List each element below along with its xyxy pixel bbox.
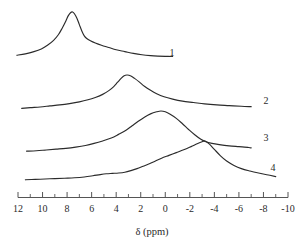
spectrum-trace-2 bbox=[22, 75, 252, 108]
spectrum-label-1: 1 bbox=[170, 47, 175, 58]
spectrum-label-2: 2 bbox=[264, 95, 269, 106]
x-axis-tick-label: 2 bbox=[138, 203, 143, 214]
x-axis-tick-label: -2 bbox=[186, 203, 194, 214]
trace-labels: 1 2 3 4 bbox=[170, 47, 276, 173]
x-axis-tick-label: -10 bbox=[281, 203, 294, 214]
x-axis-tick-labels: 121086420-2-4-6-8-10 bbox=[13, 203, 295, 214]
spectrum-traces bbox=[17, 12, 276, 180]
nmr-spectra-figure: 1 2 3 4 121086420-2-4-6-8-10 δ (ppm) bbox=[0, 0, 301, 244]
x-axis-tick-label: 10 bbox=[38, 203, 48, 214]
spectrum-trace-1 bbox=[17, 12, 173, 57]
x-axis-tick-label: 6 bbox=[89, 203, 94, 214]
x-axis-tick-label: 12 bbox=[13, 203, 23, 214]
spectrum-label-3: 3 bbox=[264, 132, 269, 143]
spectra-plot: 1 2 3 4 121086420-2-4-6-8-10 δ (ppm) bbox=[0, 0, 301, 244]
x-axis-tick-label: -8 bbox=[259, 203, 267, 214]
x-axis-tick-label: 4 bbox=[114, 203, 119, 214]
x-axis-tick-label: 8 bbox=[65, 203, 70, 214]
x-axis-tick-label: -4 bbox=[210, 203, 218, 214]
x-axis-title: δ (ppm) bbox=[135, 226, 169, 238]
x-axis-ticks bbox=[18, 192, 288, 198]
x-axis: 121086420-2-4-6-8-10 bbox=[13, 192, 295, 214]
spectrum-label-4: 4 bbox=[271, 162, 276, 173]
x-axis-tick-label: 0 bbox=[163, 203, 168, 214]
spectrum-trace-3 bbox=[27, 111, 252, 151]
x-axis-tick-label: -6 bbox=[235, 203, 243, 214]
